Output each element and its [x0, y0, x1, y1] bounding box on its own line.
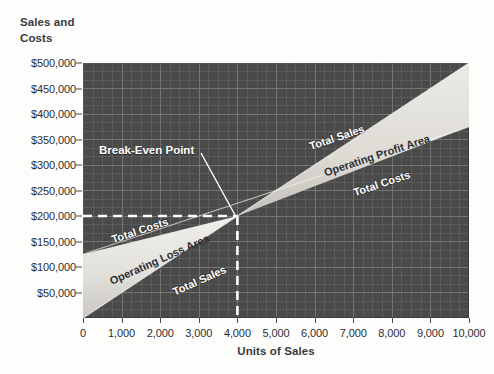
y-tick-mark	[76, 88, 82, 89]
x-tick-mark	[122, 318, 123, 323]
x-tick-label: 9,000	[417, 327, 444, 339]
y-tick-label: $100,000	[31, 261, 76, 273]
band-label-total-sales-lower: Total Sales	[171, 263, 228, 297]
y-tick-label: $500,000	[31, 57, 76, 69]
x-tick-mark	[237, 318, 238, 323]
x-tick-label: 4,000	[224, 327, 251, 339]
x-tick-label: 10,000	[452, 327, 485, 339]
y-tick-label: $300,000	[31, 159, 76, 171]
x-tick-mark	[430, 318, 431, 323]
y-axis-title-line-1: Sales and	[20, 14, 130, 30]
x-axis: 01,0002,0003,0004,0005,0006,0007,0008,00…	[83, 318, 469, 348]
x-tick-label: 6,000	[301, 327, 328, 339]
y-tick-mark	[76, 165, 82, 166]
y-axis-title-line-2: Costs	[20, 30, 130, 46]
y-tick-label: $250,000	[31, 185, 76, 197]
y-tick-label: $350,000	[31, 134, 76, 146]
x-tick-mark	[353, 318, 354, 323]
y-tick-mark	[76, 139, 82, 140]
x-tick-label: 8,000	[378, 327, 405, 339]
break-even-chart: Sales and Costs $50,000$100,000$150,000$…	[0, 0, 494, 374]
y-tick-label: $400,000	[31, 108, 76, 120]
svg-text:Total Sales: Total Sales	[171, 263, 228, 297]
plot-area: Total Sales Operating Profit Area Total …	[83, 63, 469, 318]
x-tick-label: 3,000	[185, 327, 212, 339]
y-tick-label: $50,000	[37, 287, 76, 299]
y-axis: $50,000$100,000$150,000$200,000$250,000$…	[0, 63, 76, 318]
y-tick-mark	[76, 216, 82, 217]
x-tick-mark	[469, 318, 470, 323]
y-tick-label: $200,000	[31, 210, 76, 222]
break-even-leader-line	[201, 153, 235, 215]
svg-text:Total Costs: Total Costs	[352, 168, 412, 198]
x-tick-label: 5,000	[262, 327, 289, 339]
y-tick-mark	[76, 114, 82, 115]
x-tick-mark	[315, 318, 316, 323]
y-tick-mark	[76, 241, 82, 242]
y-tick-mark	[76, 190, 82, 191]
x-tick-mark	[160, 318, 161, 323]
x-tick-label: 2,000	[147, 327, 174, 339]
x-tick-label: 1,000	[108, 327, 135, 339]
x-tick-label: 7,000	[340, 327, 367, 339]
x-tick-mark	[199, 318, 200, 323]
x-axis-title: Units of Sales	[83, 345, 469, 357]
x-tick-label: 0	[80, 327, 86, 339]
band-label-total-costs-upper: Total Costs	[352, 168, 412, 198]
break-even-point-label: Break-Even Point	[99, 144, 194, 156]
plot-graphics: Total Sales Operating Profit Area Total …	[83, 63, 469, 318]
y-tick-label: $450,000	[31, 83, 76, 95]
x-tick-mark	[392, 318, 393, 323]
x-tick-mark	[83, 318, 84, 323]
x-tick-mark	[276, 318, 277, 323]
y-tick-mark	[76, 63, 82, 64]
y-tick-label: $150,000	[31, 236, 76, 248]
y-axis-title: Sales and Costs	[20, 14, 130, 46]
y-tick-mark	[76, 267, 82, 268]
y-tick-mark	[76, 292, 82, 293]
